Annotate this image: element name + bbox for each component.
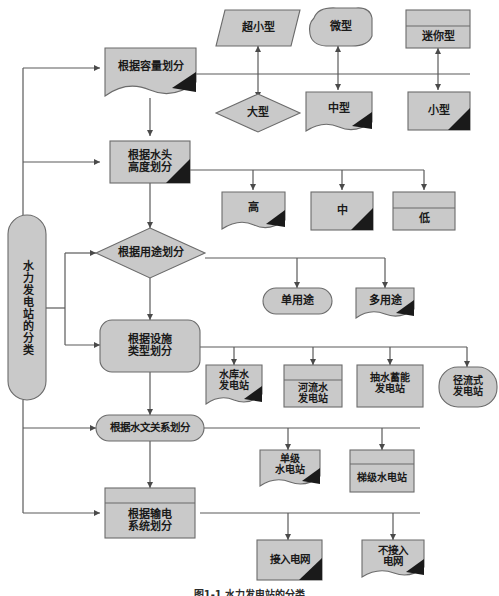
outcome-di-shape[interactable] xyxy=(393,192,455,230)
outcome-heliu-shape[interactable] xyxy=(284,365,342,407)
flowchart-figure: 水力发电站的分类 根据容量划分 根据水头 高度划分 根据用途划分 根据设施 类型… xyxy=(0,0,499,596)
node-purpose-shape[interactable] xyxy=(96,228,205,278)
node-transmission-shape[interactable] xyxy=(105,488,195,538)
figure-caption: 图1-1 水力发电站的分类 xyxy=(0,586,499,596)
outcome-chaoxiaoxing-shape[interactable] xyxy=(216,10,300,46)
outcome-jingliu-shape[interactable] xyxy=(439,367,497,407)
flowchart-shapes xyxy=(8,8,497,580)
node-hydrology-shape[interactable] xyxy=(96,415,204,441)
node-facility-shape[interactable] xyxy=(100,320,200,372)
flowchart-canvas xyxy=(0,0,499,596)
outcome-weixing-shape[interactable] xyxy=(310,8,373,46)
node-root-shape[interactable] xyxy=(8,215,46,400)
outcome-daxing-shape[interactable] xyxy=(216,94,300,132)
outcome-danyongtu-shape[interactable] xyxy=(263,288,332,314)
outcome-tiji-shape[interactable] xyxy=(350,450,414,492)
outcome-minixing-shape[interactable] xyxy=(406,10,470,48)
outcome-chouxu-shape[interactable] xyxy=(357,365,423,407)
